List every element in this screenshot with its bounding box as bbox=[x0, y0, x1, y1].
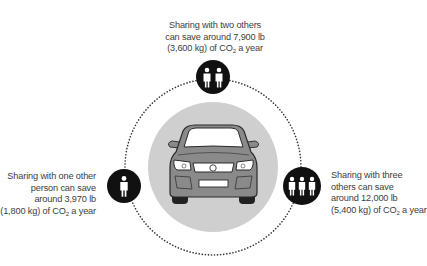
caption-line: around 12,000 lb bbox=[331, 193, 421, 205]
car-icon bbox=[168, 125, 258, 204]
node-two-others bbox=[196, 60, 230, 94]
caption-three-others: Sharing with three others can save aroun… bbox=[331, 170, 421, 216]
node-one-other bbox=[107, 169, 141, 203]
caption-line: (1,800 kg) of CO2 a year bbox=[0, 206, 96, 218]
caption-line: Sharing with one other bbox=[0, 171, 96, 183]
caption-line: Sharing with three bbox=[331, 170, 421, 182]
caption-line: others can save bbox=[331, 182, 421, 194]
caption-line: around 3,970 lb bbox=[0, 194, 96, 206]
caption-one-other: Sharing with one other person can save a… bbox=[0, 171, 96, 217]
caption-line: Sharing with two others bbox=[150, 20, 280, 32]
caption-line: (5,400 kg) of CO2 a year bbox=[331, 205, 421, 217]
caption-line: (3,600 kg) of CO2 a year bbox=[150, 43, 280, 55]
caption-line: person can save bbox=[0, 183, 96, 195]
caption-two-others: Sharing with two others can save around … bbox=[150, 20, 280, 55]
node-three-others bbox=[283, 167, 321, 205]
caption-line: can save around 7,900 lb bbox=[150, 32, 280, 44]
